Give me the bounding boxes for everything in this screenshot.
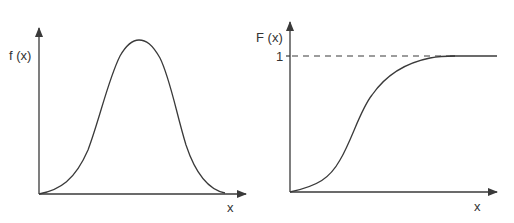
pdf-y-label: f (x) bbox=[9, 48, 31, 63]
pdf-chart: f (x) x bbox=[9, 28, 246, 215]
cdf-curve bbox=[290, 56, 455, 192]
pdf-x-label: x bbox=[227, 200, 234, 215]
cdf-x-label: x bbox=[474, 199, 481, 214]
cdf-y-label: F (x) bbox=[256, 30, 283, 45]
cdf-tick-label-1: 1 bbox=[276, 49, 283, 64]
figure: f (x) x F (x) 1 x bbox=[0, 0, 514, 223]
cdf-chart: F (x) 1 x bbox=[256, 22, 497, 214]
pdf-curve bbox=[39, 40, 225, 194]
